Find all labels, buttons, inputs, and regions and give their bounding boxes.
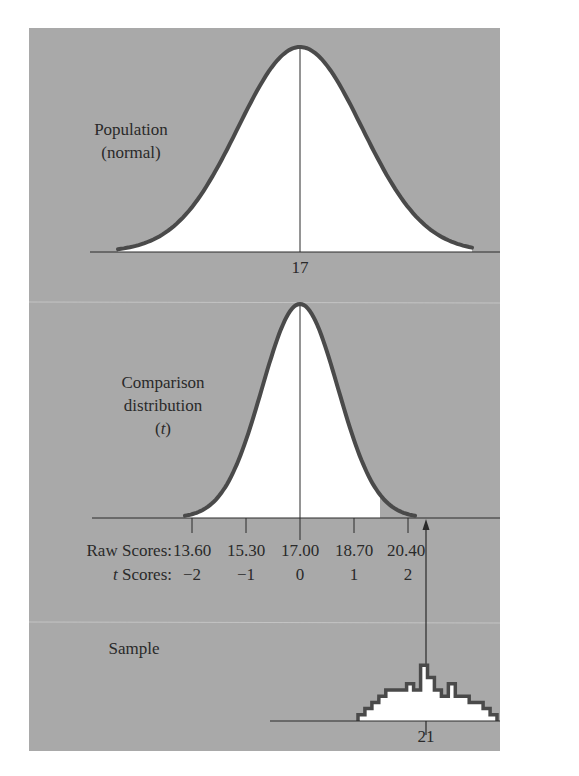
raw-scores-label: Raw Scores:: [87, 541, 172, 560]
comparison-label: distribution: [124, 396, 203, 415]
population-label: Population: [94, 120, 168, 139]
t-test-figure: Population (normal) 17 Comparison distri…: [0, 0, 579, 776]
raw-score: 17.00: [281, 541, 319, 560]
t-score: 2: [404, 565, 413, 584]
t-scores-label: t Scores:: [113, 565, 172, 584]
comparison-label: (t): [155, 419, 171, 438]
population-mean-label: 17: [292, 258, 310, 277]
sample-mean-label: 21: [418, 727, 435, 746]
raw-score: 15.30: [227, 541, 265, 560]
t-score: −1: [237, 565, 255, 584]
t-score: −2: [183, 565, 201, 584]
population-label: (normal): [101, 143, 160, 162]
sample-label: Sample: [109, 639, 160, 658]
raw-score: 18.70: [335, 541, 373, 560]
raw-score: 13.60: [173, 541, 211, 560]
t-score: 1: [350, 565, 359, 584]
comparison-label: Comparison: [121, 373, 205, 392]
t-score: 0: [296, 565, 305, 584]
raw-score: 20.40: [387, 541, 425, 560]
